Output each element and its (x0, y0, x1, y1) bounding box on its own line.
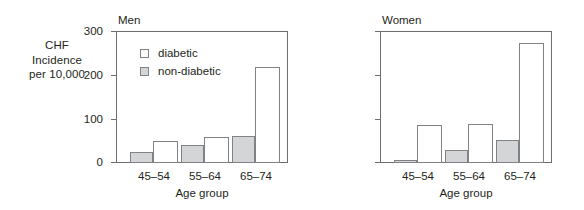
bar-group-men-55-64: 55–64 (181, 31, 229, 163)
y-axis-title-line-1: CHF (16, 38, 98, 53)
panel-men: Men 300 200 100 0 diabetic non-diabetic (116, 31, 288, 163)
bar-women-65-74-diabetic (519, 43, 544, 163)
bar-men-65-74-non-diabetic (232, 136, 255, 163)
panel-title-men: Men (118, 14, 140, 26)
y-tick-label-300: 300 (84, 25, 103, 37)
bars-women: 45–54 55–64 65–74 (380, 31, 552, 163)
bar-group-women-45-54: 45–54 (394, 31, 442, 163)
bar-men-65-74-diabetic (255, 67, 280, 163)
bar-men-45-54-non-diabetic (130, 152, 153, 163)
x-axis-title-women: Age group (380, 187, 552, 199)
bar-women-65-74-non-diabetic (496, 140, 519, 163)
bar-women-55-64-non-diabetic (445, 150, 468, 163)
y-tick-label-200: 200 (84, 69, 103, 81)
y-axis-title-line-2: Incidence (16, 53, 98, 68)
bar-women-45-54-diabetic (417, 125, 442, 163)
y-tick-label-100: 100 (84, 113, 103, 125)
bar-group-women-55-64: 55–64 (445, 31, 493, 163)
bar-men-55-64-non-diabetic (181, 145, 204, 163)
bar-men-45-54-diabetic (153, 141, 178, 163)
chf-incidence-bar-chart: CHF Incidence per 10,000 Men 300 200 100… (0, 0, 584, 210)
x-tick-label-women-55-64: 55–64 (453, 170, 485, 182)
x-tick-label-men-65-74: 65–74 (240, 170, 272, 182)
bar-group-men-65-74: 65–74 (232, 31, 280, 163)
bar-women-45-54-non-diabetic (394, 160, 417, 163)
panel-title-women: Women (382, 14, 421, 26)
bar-group-women-65-74: 65–74 (496, 31, 544, 163)
x-tick-label-men-55-64: 55–64 (189, 170, 221, 182)
x-tick-label-women-45-54: 45–54 (402, 170, 434, 182)
x-tick-label-men-45-54: 45–54 (138, 170, 170, 182)
x-axis-title-men: Age group (116, 187, 288, 199)
bar-men-55-64-diabetic (204, 137, 229, 163)
x-tick-label-women-65-74: 65–74 (504, 170, 536, 182)
panel-women: Women 45–54 55–64 65–74 (380, 31, 552, 163)
bars-men: 45–54 55–64 65–74 (116, 31, 288, 163)
bar-group-men-45-54: 45–54 (130, 31, 178, 163)
bar-women-55-64-diabetic (468, 124, 493, 163)
y-tick-label-0: 0 (97, 156, 103, 168)
